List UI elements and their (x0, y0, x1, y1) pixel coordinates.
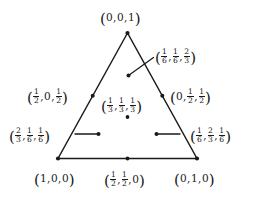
dot-bottom-left-vertex (56, 156, 60, 160)
label-lower-right-interior-point: (16,23,16) (190, 127, 231, 144)
dot-centroid (126, 115, 130, 119)
dot-bottom-edge-midpoint (126, 157, 130, 161)
label-upper-interior-point: (16,16,23) (155, 48, 196, 65)
label-right-edge-midpoint: (0,12,12) (170, 88, 211, 105)
dot-upper-interior-point (127, 74, 131, 78)
label-top-vertex: (0,0,1) (100, 12, 141, 23)
dot-left-edge-midpoint (91, 94, 95, 98)
label-bottom-edge-midpoint: (12,12,0) (104, 171, 145, 188)
simplex-figure: (0,0,1) (16,16,23) (12,0,12) (0,12,12) (… (0, 0, 254, 199)
dot-lower-right-interior-point (155, 132, 159, 136)
label-centroid: (13,13,13) (101, 97, 142, 114)
dot-right-edge-midpoint (160, 94, 164, 98)
dot-top-vertex (125, 31, 129, 35)
label-bottom-left-vertex: (1,0,0) (34, 173, 75, 184)
dot-bottom-right-vertex (195, 156, 199, 160)
dot-lower-left-interior-point (97, 132, 101, 136)
label-bottom-right-vertex: (0,1,0) (174, 173, 215, 184)
label-left-edge-midpoint: (12,0,12) (27, 88, 68, 105)
label-lower-left-interior-point: (23,16,16) (9, 127, 50, 144)
